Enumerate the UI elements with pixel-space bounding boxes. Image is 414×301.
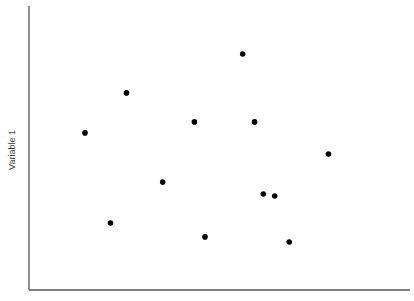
data-point <box>108 220 114 226</box>
data-point <box>252 119 258 125</box>
data-point <box>192 119 198 125</box>
data-point <box>240 51 246 57</box>
data-point <box>326 151 332 157</box>
data-point <box>160 179 166 185</box>
data-point <box>286 239 292 245</box>
data-point <box>261 191 267 197</box>
plot-area <box>0 0 414 301</box>
y-axis-label: Variable 1 <box>7 130 17 170</box>
data-point <box>82 130 88 136</box>
data-point <box>202 234 208 240</box>
data-point <box>124 90 130 96</box>
data-points <box>82 51 331 245</box>
data-point <box>272 193 278 199</box>
scatter-chart: Variable 1 <box>0 0 414 301</box>
